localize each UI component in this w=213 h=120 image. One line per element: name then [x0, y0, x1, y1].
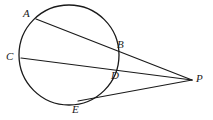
secant-line-ep [78, 80, 192, 101]
point-label-a: A [23, 8, 30, 19]
secant-line-cdp [21, 58, 192, 80]
point-label-e: E [72, 104, 79, 115]
point-label-p: P [196, 73, 203, 84]
point-label-d: D [111, 70, 119, 81]
point-label-c: C [6, 51, 13, 62]
point-label-b: B [117, 39, 124, 50]
geometry-canvas [0, 0, 213, 120]
geometry-figure: A B C D E P [0, 0, 213, 120]
circle-shape [19, 5, 119, 105]
